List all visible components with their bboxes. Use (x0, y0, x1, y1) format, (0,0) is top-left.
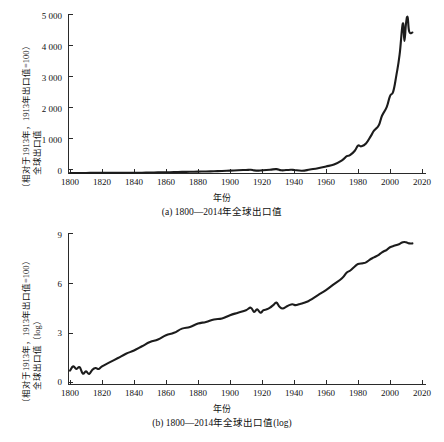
chart-panel-a: 全球出口值 （相对于1913年，1913年出口值=100） 0 1 000 2 … (0, 0, 444, 221)
panel-b-data-line (0, 215, 444, 442)
panel-a-data-line (0, 0, 444, 221)
chart-panel-b: 全球出口值（log） （相对于1913年，1913年出口值=100） 0 3 6… (0, 215, 444, 442)
